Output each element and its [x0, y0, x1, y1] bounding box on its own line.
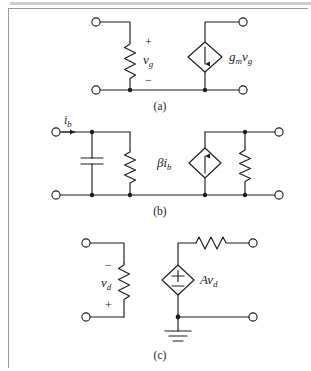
polarity-c-minus: − — [105, 258, 112, 272]
wire-a-top-right — [205, 22, 239, 42]
terminal-b-top-left — [52, 128, 60, 136]
label-c-source-vsub: d — [213, 279, 218, 289]
label-a-vg: vg — [143, 52, 154, 69]
terminal-c-bottom-left — [82, 313, 90, 321]
panel-a-circuit: + − vg gmvg (a) — [0, 0, 311, 115]
node-b-outres-bottom — [243, 193, 247, 197]
label-b-ib-sub: b — [67, 119, 71, 129]
label-b-ib: ib — [64, 113, 72, 129]
terminal-b-bottom-right — [275, 191, 283, 199]
terminal-c-top-left — [82, 239, 90, 247]
node-a-right-bottom — [203, 88, 207, 92]
node-a-left-bottom — [128, 88, 132, 92]
node-b-source-bottom — [203, 193, 207, 197]
label-a-vg-sub: g — [149, 59, 154, 69]
resistor-b-input — [125, 150, 136, 195]
wire-a-top-left — [100, 22, 130, 42]
label-c-vd-sub: d — [107, 282, 112, 292]
node-b-outres-top — [243, 130, 247, 134]
node-c-ground — [176, 315, 181, 320]
label-c-source: Avd — [199, 272, 218, 289]
terminal-a-bottom-right — [239, 86, 247, 94]
terminal-a-bottom-left — [92, 86, 100, 94]
resistor-c-input — [119, 263, 130, 317]
source-c-plus-sign — [172, 271, 184, 282]
panel-c-circuit: − + vd Avd (c) — [0, 225, 311, 371]
resistor-c-series — [196, 237, 249, 249]
wire-c-source-top — [178, 243, 196, 265]
caption-c: (c) — [154, 349, 167, 362]
terminal-c-top-right — [249, 239, 257, 247]
label-c-vd: vd — [101, 275, 112, 292]
label-b-source-isub: b — [167, 162, 171, 172]
resistor-a-input — [125, 42, 136, 90]
terminal-a-top-left — [92, 18, 100, 26]
label-a-source-vsub: g — [248, 56, 253, 66]
polarity-c-plus: + — [105, 298, 112, 312]
polarity-a-minus: − — [145, 73, 152, 87]
figure-page: + − vg gmvg (a) — [0, 0, 311, 371]
resistor-b-output — [240, 148, 251, 195]
label-b-source: βib — [156, 155, 171, 172]
terminal-a-top-right — [239, 18, 247, 26]
terminal-b-bottom-left — [52, 191, 60, 199]
panel-b-circuit: ib βib (b) — [0, 110, 311, 220]
terminal-b-top-right — [275, 128, 283, 136]
node-b-cap-top — [90, 130, 94, 134]
node-b-cap-bottom — [90, 193, 94, 197]
polarity-a-plus: + — [145, 35, 152, 49]
terminal-c-bottom-right — [249, 313, 257, 321]
node-b-res-bottom — [128, 193, 132, 197]
label-a-source: gmvg — [229, 49, 253, 66]
caption-b: (b) — [153, 205, 167, 218]
